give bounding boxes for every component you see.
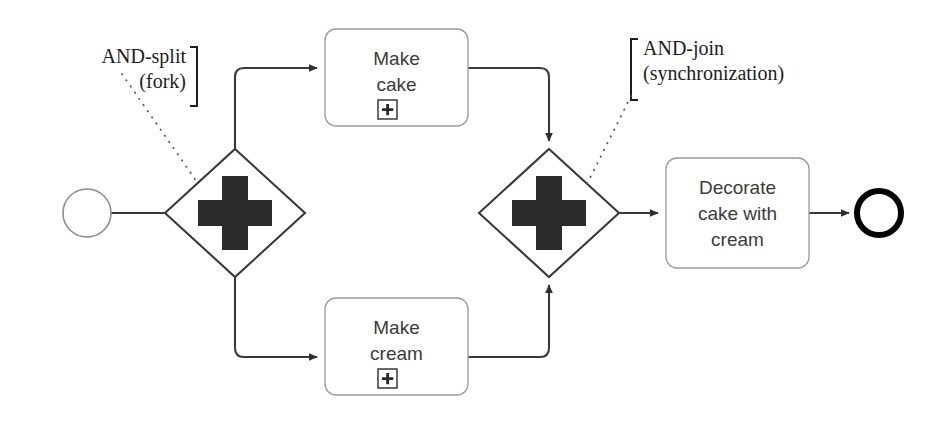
flow-make-cake-to-join (468, 68, 549, 141)
and-join-bracket (631, 39, 638, 100)
subprocess-plus-icon (378, 369, 397, 388)
task-make-cream[interactable] (325, 298, 468, 395)
task-decorate-box (666, 158, 809, 268)
flow-split-to-make-cream (235, 277, 317, 357)
and-join-annotation-label: AND-join (synchronization) (643, 36, 893, 86)
start-event[interactable] (63, 189, 111, 237)
subprocess-plus-icon (378, 100, 397, 119)
task-decorate-cake-with-cream[interactable] (666, 158, 809, 268)
and-split-bracket (190, 47, 197, 106)
flow-make-cream-to-join (468, 285, 549, 357)
and-split-gateway[interactable] (165, 149, 305, 277)
and-join-gateway[interactable] (479, 149, 619, 277)
task-make-cake[interactable] (325, 29, 468, 126)
and-split-annotation-label: AND-split (fork) (18, 44, 186, 94)
bpmn-diagram-canvas: Make cake Make cream Decorate cake with … (0, 0, 926, 428)
and-join-leader-line (585, 96, 631, 188)
flow-split-to-make-cake (235, 68, 317, 149)
end-event[interactable] (857, 191, 901, 235)
